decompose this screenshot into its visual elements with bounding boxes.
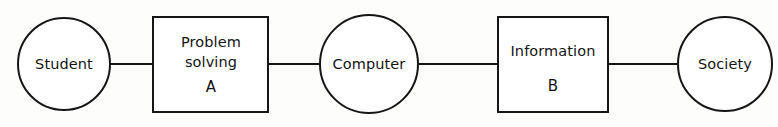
node-computer-label: Computer [333,56,406,72]
node-information-sublabel: B [548,77,558,95]
node-student-label: Student [35,56,93,72]
node-problem-solving-sublabel: A [206,78,217,96]
node-information-label-line1: Information [510,43,595,59]
node-society-label: Society [698,56,752,72]
node-information-box[interactable] [498,17,608,112]
flow-diagram: Student Problem solving A Computer Infor… [0,0,778,127]
flow-diagram-canvas: Student Problem solving A Computer Infor… [0,0,778,127]
node-problem-solving-label-line2: solving [185,54,237,70]
node-problem-solving-label-line1: Problem [181,34,241,50]
